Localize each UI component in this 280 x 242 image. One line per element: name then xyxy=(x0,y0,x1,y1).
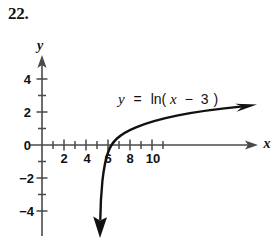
y-tick-label-4: 4 xyxy=(24,72,32,87)
graph-plot: 4 2 0 −2 −4 2 4 6 8 10 y x y = ln( x − 3 xyxy=(0,0,280,242)
y-tick-label-2: 2 xyxy=(24,105,31,120)
x-tick-labels-group: 2 4 6 8 10 xyxy=(60,151,160,166)
x-tick-label-4: 4 xyxy=(83,151,91,166)
logarithm-curve xyxy=(100,106,243,219)
x-tick-label-10: 10 xyxy=(146,151,160,166)
equation-label: y = ln( x − 3 ) xyxy=(116,91,218,107)
y-tick-label-0: 0 xyxy=(24,138,31,153)
x-tick-label-2: 2 xyxy=(60,151,67,166)
equation-variable: x xyxy=(169,91,177,107)
equation-lhs: y xyxy=(116,91,125,107)
y-axis-label: y xyxy=(35,38,44,53)
x-axis-label: x xyxy=(263,136,271,151)
y-tick-label-neg4: −4 xyxy=(19,204,35,219)
x-axis-group xyxy=(30,140,258,151)
equation-shift: 3 xyxy=(201,91,209,107)
equation-equals: = xyxy=(134,91,142,107)
equation-minus: − xyxy=(185,91,193,107)
x-tick-label-8: 8 xyxy=(126,151,133,166)
function-curve-group xyxy=(93,104,257,238)
x-tick-label-6: 6 xyxy=(104,151,111,166)
equation-text: y = ln( x − 3 ) xyxy=(116,91,218,107)
equation-fn: ln( xyxy=(151,91,167,107)
y-tick-label-neg2: −2 xyxy=(19,171,34,186)
figure-container: 22. xyxy=(0,0,280,242)
equation-close-paren: ) xyxy=(213,91,218,107)
